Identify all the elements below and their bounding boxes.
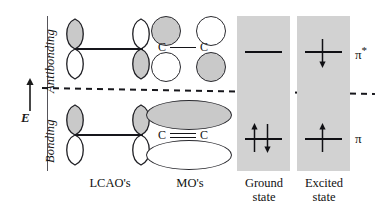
excited-state-panel (297, 16, 350, 171)
column-caption-excited-state: Excited state (294, 176, 354, 205)
excited-bonding-spin-up (318, 123, 327, 153)
double-bond-line (170, 133, 196, 138)
excited-caption-line1: Excited (294, 176, 354, 190)
ground-state-panel (237, 16, 290, 171)
ground-antibonding-level (245, 51, 282, 53)
region-label-antibonding: Antibonding (43, 29, 58, 93)
ground-caption-line2: state (234, 190, 294, 204)
ground-caption-line1: Ground (234, 176, 294, 190)
mo-antibonding-bond-label: C C (158, 40, 208, 55)
mo-bonding-bond-label: C C (158, 128, 208, 143)
ground-bonding-spin-down (263, 123, 272, 153)
region-label-bonding: Bonding (43, 119, 58, 163)
carbon-atom-right: C (200, 40, 208, 55)
pi-star-symbol: π (355, 47, 362, 62)
carbon-atom-left: C (158, 128, 166, 143)
column-caption-mo: MO's (146, 176, 234, 190)
mo-antibonding-group: C C (150, 16, 230, 82)
column-caption-ground-state: Ground state (234, 176, 294, 205)
lcao-connector-bar-bonding (75, 134, 143, 136)
orbital-label-antibonding: π* (355, 44, 367, 63)
mo-lobe-bottom (146, 140, 232, 170)
orbital-label-bonding: π (355, 131, 362, 147)
mo-lobe-top (146, 100, 232, 130)
star-superscript: * (362, 44, 368, 56)
lcao-antibonding-group (60, 18, 158, 80)
energy-axis-label: E (21, 110, 30, 126)
carbon-atom-right: C (200, 128, 208, 143)
excited-antibonding-spin-down (318, 38, 327, 68)
excited-caption-line2: state (294, 190, 354, 204)
mo-lobe-bottom-right (196, 52, 226, 82)
ground-bonding-spin-up (250, 123, 259, 153)
energy-up-arrow-icon (24, 78, 36, 112)
mo-lobe-bottom-left (151, 52, 181, 82)
mo-bonding-group: C C (146, 100, 234, 170)
mo-diagram-figure: E Antibonding Bonding C (0, 0, 377, 213)
column-caption-lcao: LCAO's (62, 176, 158, 190)
carbon-atom-left: C (158, 40, 166, 55)
lcao-connector-bar-antibonding (75, 48, 143, 50)
single-bond-line (170, 47, 196, 49)
lcao-bonding-group (60, 104, 158, 166)
